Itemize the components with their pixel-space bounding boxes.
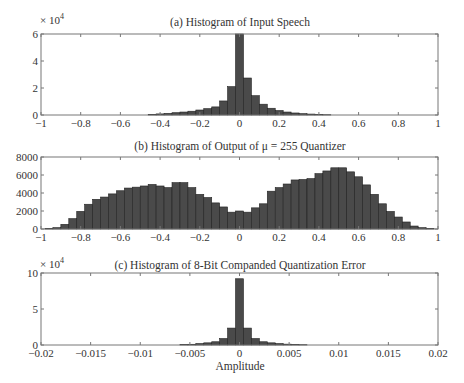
histogram-bar: [259, 104, 267, 115]
x-tick-label: 0.02: [428, 347, 447, 359]
y-tick-label: 0: [33, 223, 39, 235]
histogram-bar: [69, 219, 77, 229]
x-tick-label: 0.8: [391, 231, 405, 243]
histogram-bar: [267, 191, 275, 229]
histogram-bar: [315, 174, 323, 229]
x-tick-label: 1: [435, 231, 441, 243]
x-tick-label: 0: [237, 117, 243, 129]
histogram-bar: [132, 187, 140, 229]
histogram-bar: [251, 339, 259, 345]
bars: [45, 168, 434, 229]
y-tick-label: 5: [33, 303, 39, 315]
x-tick-label: 0.015: [376, 347, 401, 359]
histogram-bar: [243, 212, 251, 229]
y-tick-label: 0: [33, 339, 39, 351]
x-tick-label: 0.01: [329, 347, 348, 359]
panel-a: (a) Histogram of Input Speech × 104 −1−0…: [33, 12, 441, 129]
histogram-bar: [355, 177, 363, 229]
panel-b: (b) Histogram of Output of μ = 255 Quant…: [16, 140, 441, 243]
histogram-bar: [283, 184, 291, 229]
x-tick-label: −0.01: [128, 347, 153, 359]
x-tick-label: 0.2: [272, 117, 286, 129]
x-axis-label: Amplitude: [215, 360, 264, 373]
histogram-bar: [275, 188, 283, 229]
x-tick-label: 0.4: [312, 231, 326, 243]
histogram-bar: [236, 279, 244, 345]
histogram-bar: [220, 339, 228, 345]
histogram-bar: [251, 96, 259, 115]
y-tick-label: 10: [27, 267, 39, 279]
x-tick-label: 0.8: [391, 117, 405, 129]
bars: [148, 34, 331, 115]
histogram-bar: [124, 188, 132, 229]
histogram-bar: [251, 208, 259, 229]
histogram-bar: [85, 204, 93, 229]
histogram-bar: [196, 194, 204, 229]
x-tick-label: −0.8: [71, 231, 91, 243]
x-tick-label: 0: [237, 231, 243, 243]
histogram-bar: [236, 34, 244, 115]
y-tick-label: 4000: [16, 187, 39, 199]
histogram-bar: [228, 87, 236, 115]
histogram-bar: [188, 111, 196, 115]
y-tick-label: 0: [33, 109, 39, 121]
histogram-bar: [363, 185, 371, 229]
y-multiplier: × 104: [40, 12, 64, 26]
histogram-bar: [243, 328, 251, 345]
y-tick-label: 8000: [16, 151, 39, 163]
x-tick-label: 1: [435, 117, 441, 129]
histogram-bar: [307, 179, 315, 229]
histogram-bar: [331, 168, 339, 229]
x-tick-label: −0.6: [110, 117, 130, 129]
x-tick-label: −0.015: [75, 347, 106, 359]
histogram-bar: [180, 183, 188, 229]
x-tick-label: −0.4: [150, 231, 170, 243]
x-tick-label: 0.6: [352, 231, 366, 243]
x-tick-label: 0.4: [312, 117, 326, 129]
histogram-bar: [140, 186, 148, 229]
histogram-bar: [204, 109, 212, 115]
panel-c: (c) Histogram of 8-Bit Companded Quantiz…: [27, 256, 448, 373]
histogram-bar: [228, 328, 236, 345]
y-tick-label: 6: [33, 28, 39, 40]
histogram-bar: [347, 172, 355, 229]
x-tick-label: 0.2: [272, 231, 286, 243]
x-tick-label: −0.8: [71, 117, 91, 129]
figure: (a) Histogram of Input Speech × 104 −1−0…: [0, 0, 464, 383]
chart-title: (a) Histogram of Input Speech: [170, 16, 310, 29]
histogram-bar: [156, 186, 164, 229]
histogram-bar: [93, 199, 101, 229]
histogram-bar: [116, 191, 124, 229]
chart-title: (b) Histogram of Output of μ = 255 Quant…: [134, 140, 345, 153]
histogram-bar: [204, 198, 212, 230]
histogram-bar: [402, 222, 410, 229]
histogram-bar: [101, 197, 109, 229]
histogram-bar: [61, 224, 69, 229]
histogram-bar: [259, 204, 267, 229]
y-tick-label: 4: [33, 55, 39, 67]
y-multiplier: × 104: [40, 256, 64, 270]
histogram-bar: [267, 108, 275, 115]
histogram-bar: [371, 194, 379, 229]
histogram-bar: [148, 184, 156, 229]
histogram-bar: [323, 171, 331, 229]
histogram-bar: [386, 211, 394, 229]
x-tick-label: 0.6: [352, 117, 366, 129]
histogram-bar: [164, 188, 172, 229]
histogram-bar: [291, 180, 299, 229]
histogram-bar: [299, 180, 307, 230]
x-tick-label: −0.2: [190, 231, 210, 243]
x-tick-label: −0.2: [190, 117, 210, 129]
histogram-bar: [172, 183, 180, 229]
histogram-bar: [220, 207, 228, 229]
histogram-bar: [108, 194, 116, 229]
histogram-bar: [339, 168, 347, 229]
bars: [180, 279, 307, 345]
histogram-bar: [188, 188, 196, 229]
histogram-bar: [378, 204, 386, 229]
histogram-bar: [212, 203, 220, 229]
x-tick-label: −0.005: [174, 347, 205, 359]
y-tick-label: 2000: [16, 205, 39, 217]
x-tick-label: 0.005: [277, 347, 302, 359]
x-tick-label: −0.6: [110, 231, 130, 243]
